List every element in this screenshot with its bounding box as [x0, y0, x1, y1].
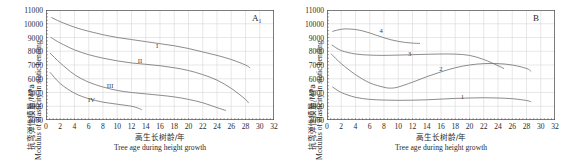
- x-axis-title-cn: 高生长树龄/年: [46, 131, 274, 142]
- x-axis-tick-label: 20: [185, 122, 193, 131]
- x-axis-tick-label: 26: [227, 122, 235, 131]
- x-axis-tick-label: 12: [128, 122, 136, 131]
- x-axis-title-en: Tree age during height growth: [46, 143, 274, 152]
- x-axis-tick-label: 6: [87, 122, 91, 131]
- x-axis-tick-label: 4: [73, 122, 77, 131]
- panel-tag: A₁: [252, 13, 262, 23]
- data-curve: [333, 29, 420, 43]
- x-axis-tick-label: 14: [423, 122, 431, 131]
- x-axis-tick-label: 30: [537, 122, 545, 131]
- y-axis-tick-label: 7000: [28, 61, 46, 70]
- y-axis-tick-label: 5000: [309, 88, 327, 97]
- panel-a1: 抗弯弹性模量/MPaModulus of elasticity in stati…: [0, 0, 281, 166]
- y-axis-tick-label: 9000: [28, 33, 46, 42]
- y-axis-tick-label: 6000: [28, 74, 46, 83]
- x-axis-tick-label: 8: [101, 122, 105, 131]
- x-axis-title-en: Tree age during height growth: [327, 143, 555, 152]
- y-axis-tick-label: 8000: [309, 47, 327, 56]
- x-axis-tick-label: 8: [382, 122, 386, 131]
- y-axis-title-en: Modulus of elasticity in static bending: [315, 40, 324, 160]
- x-axis-tick-label: 32: [551, 122, 559, 131]
- y-axis-tick-label: 10000: [305, 19, 327, 28]
- y-axis-tick-label: 11000: [24, 6, 46, 15]
- y-axis-tick-label: 6000: [309, 74, 327, 83]
- panel-b: 抗弯弹性模量/MPaModulus of elasticity in stati…: [281, 0, 562, 166]
- figure-container: 抗弯弹性模量/MPaModulus of elasticity in stati…: [0, 0, 562, 166]
- curve-label-3: 3: [408, 49, 411, 56]
- curve-label-I: I: [156, 42, 158, 49]
- x-axis-tick-label: 28: [242, 122, 250, 131]
- y-axis-tick-label: 10000: [24, 19, 46, 28]
- x-axis-tick-label: 24: [494, 122, 502, 131]
- x-axis-tick-label: 2: [339, 122, 343, 131]
- x-axis-tick-label: 32: [270, 122, 278, 131]
- y-axis-title-en: Modulus of elasticity in static bending: [34, 40, 43, 160]
- x-axis-tick-label: 16: [437, 122, 445, 131]
- curve-label-1: 1: [461, 92, 464, 99]
- plot-area: 3000400050006000700080009000100001100002…: [327, 10, 555, 120]
- y-axis-tick-label: 4000: [309, 102, 327, 111]
- x-axis-tick-label: 24: [213, 122, 221, 131]
- x-axis-tick-label: 22: [199, 122, 207, 131]
- curve-label-2: 2: [439, 65, 442, 72]
- x-axis-tick-label: 10: [113, 122, 121, 131]
- x-axis-tick-label: 12: [409, 122, 417, 131]
- panel-tag: B: [533, 13, 539, 23]
- y-axis-tick-label: 5000: [28, 88, 46, 97]
- x-axis-tick-label: 20: [466, 122, 474, 131]
- curve-label-IV: IV: [88, 96, 95, 103]
- curve-label-4: 4: [379, 26, 382, 33]
- x-axis-tick-label: 26: [508, 122, 516, 131]
- curve-label-III: III: [107, 81, 114, 88]
- x-axis-tick-label: 0: [44, 122, 48, 131]
- y-axis-tick-label: 8000: [28, 47, 46, 56]
- data-curve: [333, 87, 531, 102]
- x-axis-tick-label: 14: [142, 122, 150, 131]
- y-axis-tick-label: 7000: [309, 61, 327, 70]
- x-axis-tick-label: 30: [256, 122, 264, 131]
- x-axis-tick-label: 2: [58, 122, 62, 131]
- y-axis-tick-label: 4000: [28, 102, 46, 111]
- x-axis-tick-label: 6: [368, 122, 372, 131]
- y-axis-tick-label: 9000: [309, 33, 327, 42]
- data-curve: [50, 73, 141, 110]
- y-axis-tick-label: 11000: [305, 6, 327, 15]
- data-curve: [52, 18, 250, 68]
- x-axis-tick-label: 10: [394, 122, 402, 131]
- x-axis-tick-label: 22: [480, 122, 488, 131]
- curve-label-II: II: [138, 57, 142, 64]
- x-axis-tick-label: 0: [325, 122, 329, 131]
- data-curve: [51, 38, 248, 103]
- x-axis-tick-label: 18: [170, 122, 178, 131]
- data-curve: [331, 54, 531, 88]
- x-axis-tick-label: 16: [156, 122, 164, 131]
- x-axis-tick-label: 18: [451, 122, 459, 131]
- plot-area: 3000400050006000700080009000100001100002…: [46, 10, 274, 120]
- x-axis-tick-label: 28: [523, 122, 531, 131]
- x-axis-title-cn: 高生长树龄/年: [327, 131, 555, 142]
- x-axis-tick-label: 4: [354, 122, 358, 131]
- chart-svg: [46, 10, 274, 120]
